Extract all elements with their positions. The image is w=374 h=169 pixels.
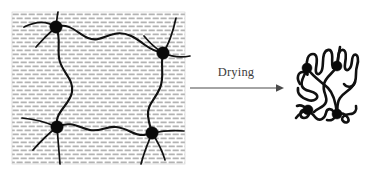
arrow-head-icon (276, 84, 284, 92)
crosslink-node (157, 47, 169, 59)
collapsed-crosslink-node (332, 109, 342, 119)
collapsed-crosslink-node (302, 63, 312, 73)
crosslink-node (50, 21, 62, 33)
collapsed-crosslink-node (332, 61, 342, 71)
collapsed-crosslink-node (303, 105, 313, 115)
figure-root: Drying (0, 0, 374, 169)
drying-arrow-group: Drying (190, 65, 284, 92)
crosslink-node (51, 121, 63, 133)
dried-network-group (296, 47, 358, 122)
drying-arrow-label: Drying (218, 65, 255, 79)
swollen-hydrogel-group (12, 12, 190, 164)
hydrogel-drying-figure: Drying (0, 0, 374, 169)
crosslink-node (146, 127, 158, 139)
